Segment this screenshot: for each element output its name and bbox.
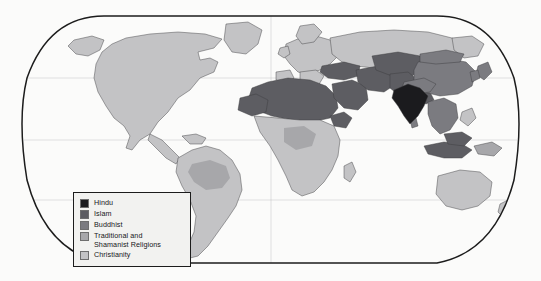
legend-label-islam: Islam	[94, 209, 112, 218]
legend-swatch-buddhist	[80, 221, 89, 230]
legend-label-christianity: Christianity	[94, 250, 131, 259]
legend-item-hindu: Hindu	[80, 198, 184, 208]
legend-item-buddhist: Buddhist	[80, 220, 184, 230]
legend-swatch-traditional	[80, 232, 89, 241]
legend-item-islam: Islam	[80, 209, 184, 219]
legend-label-traditional: Traditional and Shamanist Religions	[94, 231, 161, 249]
legend-swatch-christianity	[80, 251, 89, 260]
legend-label-hindu: Hindu	[94, 198, 113, 207]
legend-swatch-hindu	[80, 199, 89, 208]
map-legend: Hindu Islam Buddhist Traditional and Sha…	[73, 192, 191, 267]
legend-swatch-islam	[80, 210, 89, 219]
legend-item-traditional: Traditional and Shamanist Religions	[80, 231, 184, 249]
world-religion-map: Hindu Islam Buddhist Traditional and Sha…	[0, 0, 541, 281]
legend-item-christianity: Christianity	[80, 250, 184, 260]
legend-label-buddhist: Buddhist	[94, 220, 123, 229]
